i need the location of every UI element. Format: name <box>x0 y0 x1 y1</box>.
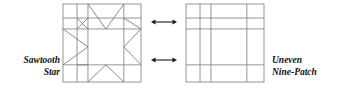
diagonal-left-top <box>63 29 88 47</box>
block-outline <box>63 4 141 82</box>
sawtooth-star-block <box>63 4 141 82</box>
diagonal-right-top <box>124 29 141 47</box>
bottom-arrow-head-left <box>151 58 156 63</box>
diagonal-right-bottom <box>124 47 141 65</box>
diagonal-bottom-right <box>106 65 124 82</box>
label-uneven-nine-patch-line2: Nine-Patch <box>272 66 345 78</box>
top-arrow-head-left <box>151 20 156 25</box>
uneven-nine-patch-block <box>186 4 264 82</box>
label-uneven-nine-patch-line1: Uneven <box>272 54 345 66</box>
diagonal-band-tr <box>124 18 141 29</box>
diagonal-left-bottom <box>63 47 88 65</box>
label-sawtooth-star-line2: Star <box>0 66 60 78</box>
diagonal-top-right <box>106 4 124 29</box>
label-sawtooth-star: Sawtooth Star <box>0 54 60 78</box>
label-uneven-nine-patch: Uneven Nine-Patch <box>272 54 345 78</box>
quilt-block-figure: Sawtooth Star Uneven Nine-Patch <box>0 0 345 90</box>
diagonal-bottom-left <box>88 65 106 82</box>
diagonal-top-left <box>88 4 106 29</box>
top-arrow-head-right <box>173 20 178 25</box>
label-sawtooth-star-line1: Sawtooth <box>0 54 60 66</box>
block-outline <box>186 4 264 82</box>
bottom-arrow-head-right <box>173 58 178 63</box>
equivalence-arrows <box>151 20 177 63</box>
